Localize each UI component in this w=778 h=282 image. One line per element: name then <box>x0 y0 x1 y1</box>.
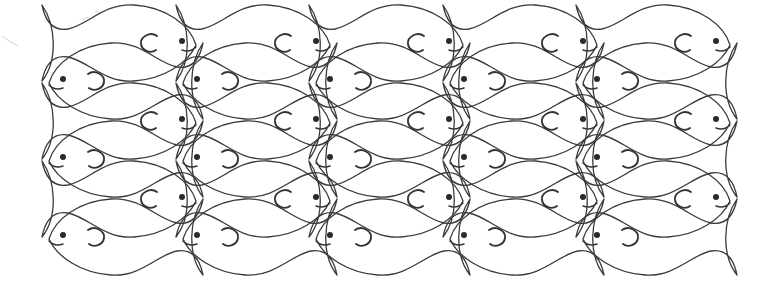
fish-eye-icon <box>179 38 185 44</box>
fish-mouth <box>716 125 730 129</box>
fish-mouth <box>183 163 197 167</box>
fish-mouth <box>182 47 196 51</box>
fish-mouth <box>183 241 197 245</box>
fish-eye-icon <box>313 38 319 44</box>
fish-eye-icon <box>60 76 66 82</box>
fish-gill <box>355 72 371 90</box>
fish-eye-icon <box>327 232 333 238</box>
fish-eye-icon <box>594 232 600 238</box>
fish-mouth <box>183 85 197 89</box>
scan-smudge-decoration <box>2 11 100 46</box>
fish-mouth <box>583 125 597 129</box>
fish-eye-icon <box>446 116 452 122</box>
fish-gill <box>275 190 291 208</box>
fish-eye-icon <box>713 194 719 200</box>
fish-gill <box>542 34 558 52</box>
fish-eye-icon <box>313 116 319 122</box>
fish-gill <box>408 34 424 52</box>
fish-gill <box>141 112 157 130</box>
fish-mouth <box>49 85 63 89</box>
fish-gill <box>355 150 371 168</box>
fish-mouth <box>49 241 63 245</box>
fish-mouth <box>316 163 330 167</box>
fish-eye-icon <box>194 76 200 82</box>
fish-eye-icon <box>461 154 467 160</box>
fish-gill <box>675 112 691 130</box>
fish-mouth <box>450 241 464 245</box>
fish-tessellation-canvas <box>0 0 778 282</box>
fish-mouth <box>583 241 597 245</box>
fish-mouth <box>583 203 597 207</box>
fish-gill <box>622 228 638 246</box>
fish-eye-icon <box>179 194 185 200</box>
fish-eye-icon <box>194 232 200 238</box>
fish-mouth <box>450 85 464 89</box>
fish-mouth <box>716 203 730 207</box>
fish-eye-icon <box>580 38 586 44</box>
fish-mouth <box>316 125 330 129</box>
fish-eye-icon <box>327 76 333 82</box>
fish-mouth <box>182 203 196 207</box>
fish-mouth <box>449 203 463 207</box>
fish-eye-icon <box>580 194 586 200</box>
fish-mouth <box>583 47 597 51</box>
fish-gill <box>489 228 505 246</box>
fish-mouth <box>182 125 196 129</box>
fish-mouth <box>583 163 597 167</box>
fish-gill <box>489 72 505 90</box>
fish-mouth <box>49 163 63 167</box>
fish-eye-icon <box>594 154 600 160</box>
fish-gill <box>88 228 104 246</box>
fish-gill <box>542 190 558 208</box>
fish-gill <box>489 150 505 168</box>
fish-mouth <box>316 85 330 89</box>
fish-eye-icon <box>461 232 467 238</box>
fish-gill <box>622 72 638 90</box>
fish-gill <box>542 112 558 130</box>
fish-eye-icon <box>60 232 66 238</box>
fish-gill <box>275 112 291 130</box>
fish-gill <box>141 34 157 52</box>
fish-gill <box>222 150 238 168</box>
fish-gill <box>141 190 157 208</box>
fish-mouth <box>449 47 463 51</box>
fish-mouth <box>583 85 597 89</box>
fish-gill <box>88 72 104 90</box>
fish-eye-icon <box>713 38 719 44</box>
fish-mouth <box>316 47 330 51</box>
fish-mouth <box>716 47 730 51</box>
fish-gill <box>408 190 424 208</box>
fish-gill <box>222 228 238 246</box>
fish-gill <box>355 228 371 246</box>
fish-eye-icon <box>461 76 467 82</box>
fish-gill <box>222 72 238 90</box>
fish-eye-icon <box>194 154 200 160</box>
fish-gill <box>675 34 691 52</box>
fish-eye-icon <box>713 116 719 122</box>
fish-mouth <box>316 241 330 245</box>
fish-layer <box>42 5 737 275</box>
fish-gill <box>622 150 638 168</box>
fish-gill <box>275 34 291 52</box>
fish-gill <box>88 150 104 168</box>
fish-eye-icon <box>594 76 600 82</box>
fish-eye-icon <box>179 116 185 122</box>
fish-eye-icon <box>313 194 319 200</box>
fish-eye-icon <box>60 154 66 160</box>
fish-mouth <box>450 163 464 167</box>
fish-eye-icon <box>446 38 452 44</box>
fish-eye-icon <box>580 116 586 122</box>
fish-mouth <box>316 203 330 207</box>
fish-mouth <box>449 125 463 129</box>
fish-eye-icon <box>327 154 333 160</box>
fish-eye-icon <box>446 194 452 200</box>
fish-gill <box>408 112 424 130</box>
fish-gill <box>675 190 691 208</box>
